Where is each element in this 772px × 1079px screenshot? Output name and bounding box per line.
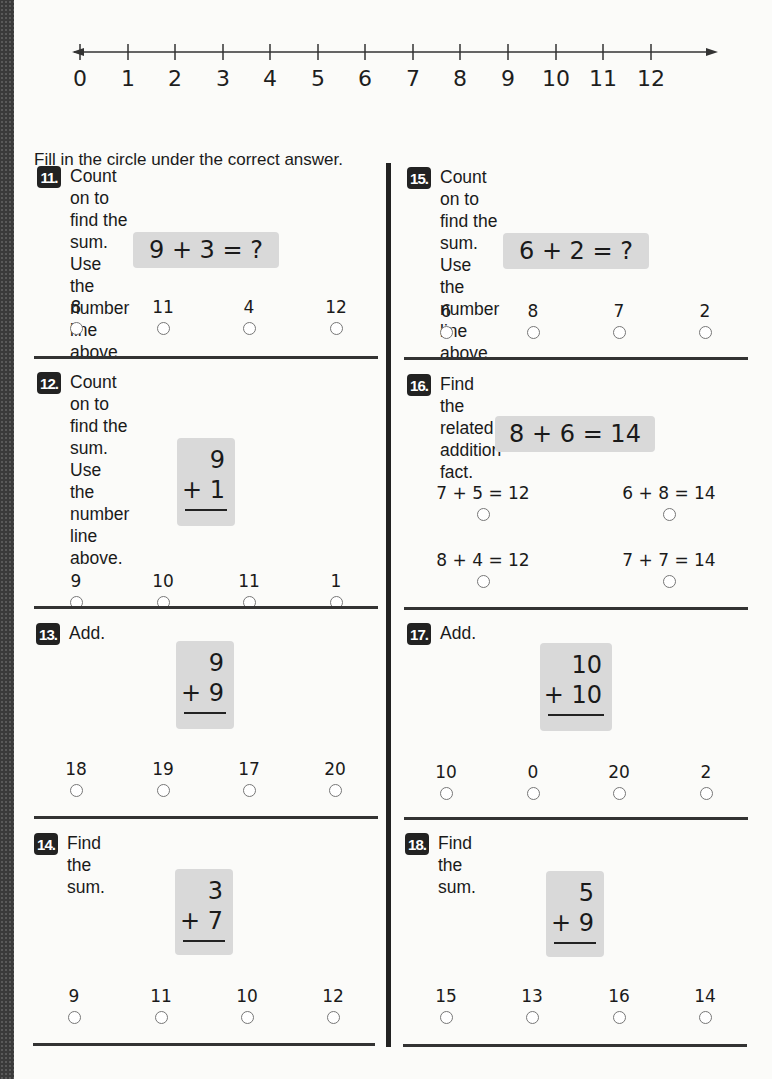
- answer-choice[interactable]: 8 + 4 = 12: [413, 549, 553, 588]
- addend-top: 10: [571, 651, 602, 679]
- answer-bubble[interactable]: [477, 508, 490, 521]
- answer-bubble[interactable]: [157, 784, 170, 797]
- problem-prompt: Count on to find the sum. Use the number…: [70, 371, 129, 569]
- answer-choice[interactable]: 17: [229, 758, 269, 797]
- answer-choice[interactable]: 12: [316, 296, 356, 335]
- answer-bubble[interactable]: [70, 322, 83, 335]
- answer-bubble[interactable]: [440, 787, 453, 800]
- prompt-line: Add.: [69, 622, 105, 644]
- answer-bubble[interactable]: [663, 508, 676, 521]
- answer-bubble[interactable]: [440, 326, 453, 339]
- answer-choice[interactable]: 10: [227, 985, 267, 1024]
- answer-choice[interactable]: 7: [599, 300, 639, 339]
- answer-bubble[interactable]: [327, 1011, 340, 1024]
- problem-number-badge: 11.: [37, 166, 61, 188]
- answer-choice[interactable]: 9: [54, 985, 94, 1024]
- column-divider: [386, 163, 391, 1047]
- answer-choice[interactable]: 10: [426, 761, 466, 800]
- page-edge-strip: [0, 0, 14, 1079]
- answer-bubble[interactable]: [155, 1011, 168, 1024]
- answer-bubble[interactable]: [613, 1011, 626, 1024]
- number-line-axis: [70, 38, 720, 68]
- answer-choice[interactable]: 16: [599, 985, 639, 1024]
- answer-choice[interactable]: 11: [229, 570, 269, 609]
- sum-rule: [554, 942, 596, 944]
- answer-bubble[interactable]: [699, 1011, 712, 1024]
- answer-choice[interactable]: 2: [685, 300, 725, 339]
- choice-value: 6: [426, 300, 466, 322]
- answer-bubble[interactable]: [241, 1011, 254, 1024]
- choice-value: 11: [143, 296, 183, 318]
- answer-choice[interactable]: 20: [599, 761, 639, 800]
- choice-value: 9: [56, 570, 96, 592]
- choice-value: 12: [316, 296, 356, 318]
- addend-top: 9: [210, 446, 225, 474]
- answer-bubble[interactable]: [527, 326, 540, 339]
- answer-choice[interactable]: 7 + 5 = 12: [413, 482, 553, 521]
- sum-rule: [185, 509, 227, 511]
- vertical-addition-box: 5 + 9: [546, 871, 604, 957]
- answer-choice[interactable]: 11: [141, 985, 181, 1024]
- answer-choice[interactable]: 12: [313, 985, 353, 1024]
- prompt-line: Find the sum.: [67, 832, 105, 898]
- answer-choice[interactable]: 0: [513, 761, 553, 800]
- answer-choice[interactable]: 2: [686, 761, 726, 800]
- addend-bottom: + 7: [180, 907, 223, 935]
- answer-choice[interactable]: 14: [685, 985, 725, 1024]
- answer-bubble[interactable]: [477, 575, 490, 588]
- answer-choice[interactable]: 18: [56, 758, 96, 797]
- tick-label-5: 5: [303, 66, 333, 91]
- section-rule: [404, 817, 748, 820]
- answer-bubble[interactable]: [527, 787, 540, 800]
- prompt-line: Count on to find the sum.: [70, 165, 129, 253]
- answer-bubble[interactable]: [329, 784, 342, 797]
- answer-bubble[interactable]: [699, 326, 712, 339]
- answer-bubble[interactable]: [157, 322, 170, 335]
- answer-choice[interactable]: 4: [229, 296, 269, 335]
- choice-value: 8 + 4 = 12: [413, 549, 553, 571]
- answer-bubble[interactable]: [243, 322, 256, 335]
- tick-label-3: 3: [208, 66, 238, 91]
- answer-bubble[interactable]: [613, 787, 626, 800]
- prompt-line: Find the sum.: [438, 832, 476, 898]
- answer-choice[interactable]: 7 + 7 = 14: [599, 549, 739, 588]
- answer-choice[interactable]: 10: [143, 570, 183, 609]
- answer-choice[interactable]: 8: [56, 296, 96, 335]
- answer-bubble[interactable]: [70, 784, 83, 797]
- equation-box: 6 + 2 = ?: [503, 233, 649, 269]
- answer-choice[interactable]: 6 + 8 = 14: [599, 482, 739, 521]
- addend-top: 5: [579, 879, 594, 907]
- tick-label-4: 4: [255, 66, 285, 91]
- answer-bubble[interactable]: [700, 787, 713, 800]
- answer-choice[interactable]: 19: [143, 758, 183, 797]
- answer-choice[interactable]: 15: [426, 985, 466, 1024]
- choice-value: 8: [513, 300, 553, 322]
- sum-rule: [183, 940, 225, 942]
- tick-label-1: 1: [113, 66, 143, 91]
- answer-bubble[interactable]: [663, 575, 676, 588]
- answer-choice[interactable]: 8: [513, 300, 553, 339]
- answer-bubble[interactable]: [330, 322, 343, 335]
- sum-rule: [548, 714, 604, 716]
- answer-choice[interactable]: 11: [143, 296, 183, 335]
- answer-bubble[interactable]: [613, 326, 626, 339]
- addend-bottom: + 10: [544, 681, 602, 709]
- answer-bubble[interactable]: [526, 1011, 539, 1024]
- vertical-addition-box: 3 + 7: [175, 869, 233, 955]
- answer-bubble[interactable]: [243, 784, 256, 797]
- prompt-line: Find the related addition fact.: [440, 373, 501, 483]
- choice-value: 19: [143, 758, 183, 780]
- choice-value: 18: [56, 758, 96, 780]
- tick-label-6: 6: [350, 66, 380, 91]
- problem-prompt: Add.: [69, 622, 105, 644]
- answer-bubble[interactable]: [440, 1011, 453, 1024]
- answer-choice[interactable]: 6: [426, 300, 466, 339]
- answer-choice[interactable]: 13: [512, 985, 552, 1024]
- answer-choice[interactable]: 9: [56, 570, 96, 609]
- choice-value: 1: [316, 570, 356, 592]
- answer-bubble[interactable]: [68, 1011, 81, 1024]
- choice-value: 8: [56, 296, 96, 318]
- answer-choice[interactable]: 1: [316, 570, 356, 609]
- problem-number-badge: 13.: [36, 623, 60, 645]
- answer-choice[interactable]: 20: [315, 758, 355, 797]
